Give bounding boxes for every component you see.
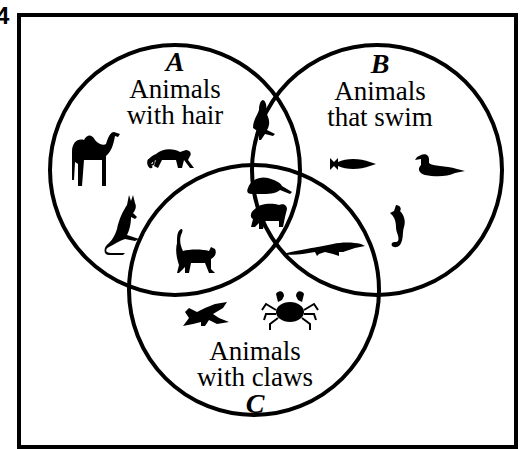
crab-icon [262, 291, 318, 330]
set-a-label: A Animals with hair [90, 48, 260, 128]
monkey-icon [147, 149, 194, 168]
bear-icon [251, 204, 287, 229]
duck-icon [415, 154, 465, 176]
camel-icon [72, 132, 120, 186]
set-c-letter: C [170, 390, 340, 418]
set-a-letter: A [90, 48, 260, 76]
set-b-letter: B [300, 50, 460, 78]
kangaroo-icon [105, 195, 140, 255]
set-c-label: Animals with claws C [170, 338, 340, 418]
cat-icon [176, 229, 216, 273]
set-a-line2: with hair [127, 100, 224, 130]
fish-icon [330, 158, 376, 170]
set-b-label: B Animals that swim [300, 50, 460, 130]
set-b-line2: that swim [327, 102, 433, 132]
bird-icon [183, 302, 229, 326]
alligator-icon [283, 243, 365, 257]
seahorse-icon [390, 205, 405, 247]
